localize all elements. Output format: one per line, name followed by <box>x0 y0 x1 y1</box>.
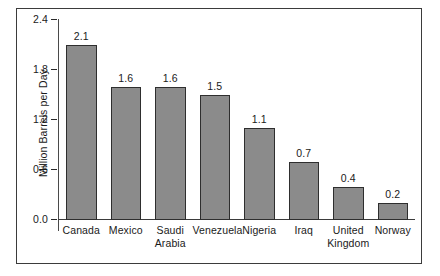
bar-value-label: 0.2 <box>371 188 416 200</box>
bar[interactable] <box>244 128 275 220</box>
x-axis-category-label: Nigeria <box>237 224 282 237</box>
y-axis-tick-mark <box>51 119 57 120</box>
y-axis-tick-label: 0.0 <box>33 213 48 225</box>
bar-group[interactable]: 2.1 <box>59 19 104 220</box>
y-axis-tick: 0.0 <box>33 213 57 225</box>
bar-group[interactable]: 0.4 <box>326 19 371 220</box>
x-axis-category-label-line: Canada <box>59 224 104 237</box>
x-axis-category-label: Iraq <box>282 224 327 237</box>
bar-value-label: 1.6 <box>104 72 149 84</box>
y-axis-tick-mark <box>51 219 57 220</box>
bar-group[interactable]: 1.6 <box>104 19 149 220</box>
y-axis-tick-label: 0.6 <box>33 163 48 175</box>
bar-value-label: 1.5 <box>193 80 238 92</box>
bar[interactable] <box>66 45 97 220</box>
y-axis-tick-mark <box>51 19 57 20</box>
bar-value-label: 2.1 <box>59 30 104 42</box>
bar-group[interactable]: 0.2 <box>371 19 416 220</box>
x-axis-category-label-line: Venezuela <box>193 224 238 237</box>
y-axis-tick-mark <box>51 69 57 70</box>
x-axis-category-label-line: Nigeria <box>237 224 282 237</box>
x-axis-category-label: UnitedKingdom <box>326 224 371 249</box>
x-axis-category-labels: CanadaMexicoSaudiArabiaVenezuelaNigeriaI… <box>59 224 415 264</box>
y-axis-tick-label: 1.8 <box>33 63 48 75</box>
y-axis-tick: 1.2 <box>33 113 57 125</box>
y-axis-tick-label: 1.2 <box>33 113 48 125</box>
x-axis-category-label-line: Norway <box>371 224 416 237</box>
x-axis-category-label-line: Iraq <box>282 224 327 237</box>
bar-value-label: 0.4 <box>326 172 371 184</box>
x-axis-category-label: Norway <box>371 224 416 237</box>
bars-layer: 2.11.61.61.51.10.70.40.2 <box>59 19 415 220</box>
bar-value-label: 1.6 <box>148 72 193 84</box>
y-axis-tick: 1.8 <box>33 63 57 75</box>
x-axis-category-label-line: Arabia <box>148 237 193 250</box>
x-axis-category-label-line: Mexico <box>104 224 149 237</box>
bar-value-label: 1.1 <box>237 113 282 125</box>
bar[interactable] <box>155 87 186 220</box>
bar[interactable] <box>333 187 364 220</box>
x-axis-category-label: Venezuela <box>193 224 238 237</box>
bar-value-label: 0.7 <box>282 147 327 159</box>
y-axis-tick-label: 2.4 <box>33 13 48 25</box>
chart-figure: Million Barrels per Day 2.41.81.20.60.0 … <box>16 8 422 264</box>
bar-group[interactable]: 1.6 <box>148 19 193 220</box>
y-axis-tick: 0.6 <box>33 163 57 175</box>
x-axis-category-label: Canada <box>59 224 104 237</box>
x-axis-category-label: Mexico <box>104 224 149 237</box>
bar[interactable] <box>200 95 231 220</box>
x-axis-category-label: SaudiArabia <box>148 224 193 249</box>
y-axis-tick-mark <box>51 169 57 170</box>
x-axis-category-label-line: United <box>326 224 371 237</box>
bar-group[interactable]: 1.1 <box>237 19 282 220</box>
bar[interactable] <box>378 203 409 220</box>
y-axis-ticks: 2.41.81.20.60.0 <box>17 9 57 276</box>
x-axis-category-label-line: Kingdom <box>326 237 371 250</box>
bar-group[interactable]: 1.5 <box>193 19 238 220</box>
x-axis-category-label-line: Saudi <box>148 224 193 237</box>
bar[interactable] <box>111 87 142 220</box>
bar-group[interactable]: 0.7 <box>282 19 327 220</box>
bar[interactable] <box>289 162 320 220</box>
y-axis-tick: 2.4 <box>33 13 57 25</box>
